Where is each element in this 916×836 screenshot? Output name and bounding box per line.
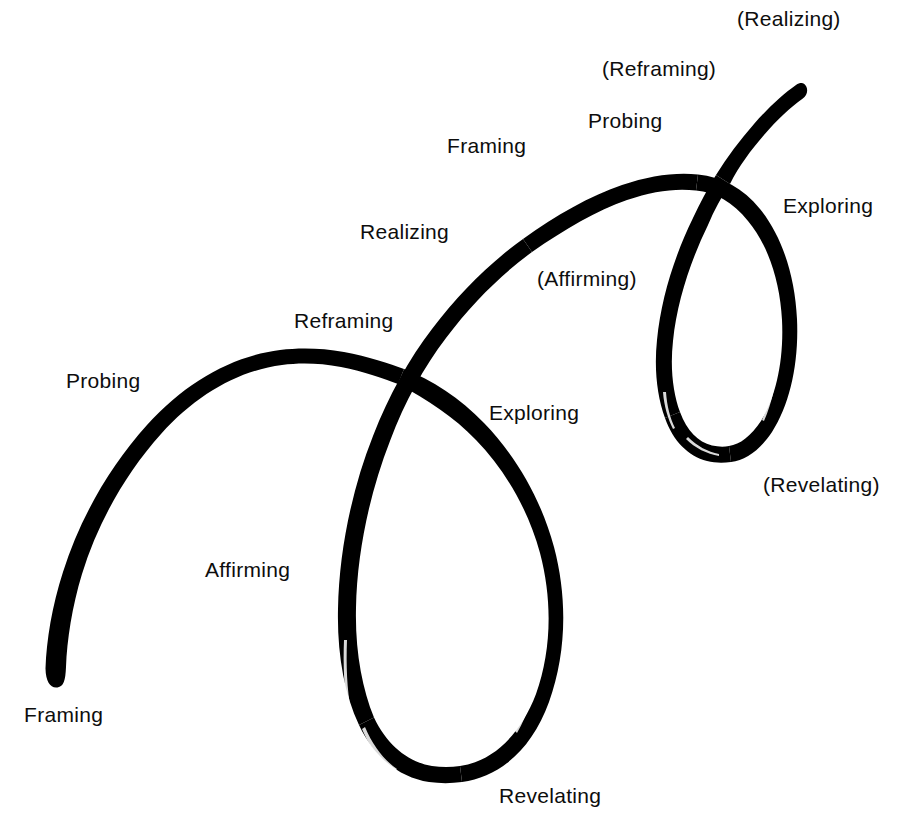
stroke-segment-small-loop-bottom: [665, 412, 731, 463]
label-framing-cycle2: Framing: [447, 135, 526, 156]
spiral-curve-graphic: [0, 0, 916, 836]
label-realizing-cycle3: (Realizing): [737, 8, 841, 29]
stroke-segment-second-cycle-rising-arc: [523, 174, 698, 252]
label-affirming-cycle1: Affirming: [205, 559, 290, 580]
label-reframing-cycle1: Reframing: [294, 310, 394, 331]
label-revelating-cycle2: (Revelating): [763, 474, 880, 495]
label-probing-cycle1: Probing: [66, 370, 140, 391]
label-exploring-cycle1: Exploring: [489, 402, 579, 423]
stroke-segment-big-loop-right-shoulder: [398, 369, 563, 782]
label-probing-cycle2: Probing: [588, 110, 662, 131]
label-reframing-cycle2: (Reframing): [602, 58, 716, 79]
label-revelating-cycle1: Revelating: [499, 785, 601, 806]
stroke-segment-final-tail: [716, 83, 807, 184]
label-realizing-cycle2: Realizing: [360, 221, 449, 242]
label-framing-cycle1: Framing: [24, 704, 103, 725]
label-exploring-cycle2: Exploring: [783, 195, 873, 216]
label-affirming-cycle2: (Affirming): [537, 268, 637, 289]
spiral-stroke-group: [46, 83, 808, 783]
diagram-canvas: Framing Probing Reframing Affirming Reve…: [0, 0, 916, 836]
stroke-segment-small-loop-right-shoulder: [696, 175, 797, 463]
stroke-segment-small-loop-left-ascending: [656, 175, 730, 418]
